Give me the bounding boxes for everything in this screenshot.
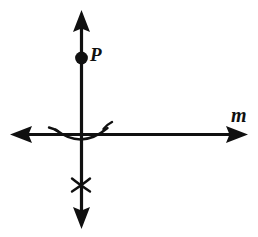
line-m [10,126,248,143]
geometry-figure: P m [0,0,258,237]
perpendicular-line [73,10,90,229]
line-m-label: m [231,105,247,125]
point-P-label: P [90,45,102,64]
point-P-dot [75,52,88,65]
construction-diagram [0,0,258,237]
construction-tick-left-icon [49,128,58,132]
